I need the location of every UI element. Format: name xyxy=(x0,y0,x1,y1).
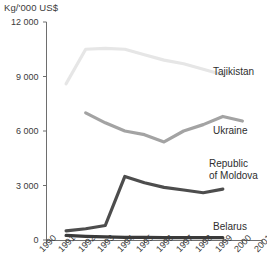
y-axis-tick-label: 9 000 xyxy=(0,72,39,82)
series-line-tajikistan xyxy=(66,48,223,83)
series-label-belarus: Belarus xyxy=(213,221,247,233)
series-label-line: Tajikistan xyxy=(213,66,254,78)
y-axis-tick-label: 0 xyxy=(0,235,39,245)
series-label-line: Ukraine xyxy=(213,125,247,137)
series-line-republic-of-moldova xyxy=(66,176,223,231)
series-label-line: Republic xyxy=(209,158,258,170)
y-axis-tick-label: 3 000 xyxy=(0,181,39,191)
series-label-tajikistan: Tajikistan xyxy=(213,66,254,78)
y-axis-ticks xyxy=(43,22,47,240)
series-label-line: of Moldova xyxy=(209,170,258,182)
y-axis-tick-label: 6 000 xyxy=(0,126,39,136)
series-label-ukraine: Ukraine xyxy=(213,125,247,137)
line-chart: Kg/'000 US$ 03 0006 0009 00012 000 19901… xyxy=(0,0,267,275)
series-label-line: Belarus xyxy=(213,221,247,233)
y-axis-tick-label: 12 000 xyxy=(0,17,39,27)
series-label-republic-of-moldova: Republicof Moldova xyxy=(209,158,258,181)
